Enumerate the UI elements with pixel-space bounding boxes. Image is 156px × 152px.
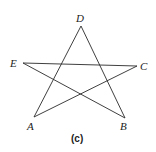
figure-caption: (c) [71, 133, 83, 144]
pentagram-diagram: D E C A B (c) [0, 0, 156, 152]
segment-EB [23, 63, 125, 118]
pentagram-figure: D E C A B (c) [0, 0, 156, 152]
star-lines [23, 26, 137, 118]
vertex-label-b: B [120, 120, 127, 132]
segment-AC [34, 66, 137, 117]
vertex-label-d: D [75, 12, 84, 24]
vertex-label-e: E [9, 57, 17, 69]
vertex-label-c: C [140, 60, 148, 72]
segment-DB [81, 26, 125, 118]
segment-EC [23, 63, 137, 66]
vertex-label-a: A [26, 120, 34, 132]
segment-DA [34, 26, 81, 117]
